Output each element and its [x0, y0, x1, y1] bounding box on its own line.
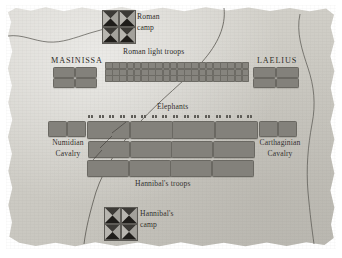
hannibal-line-block	[215, 121, 258, 139]
numidian-cavalry-block	[48, 121, 67, 137]
hannibal-line-block	[172, 121, 215, 139]
camp-tent-icon	[119, 27, 136, 44]
hannibal-line-block	[129, 160, 171, 177]
camp-tent-icon	[121, 224, 138, 241]
elephant-unit	[226, 115, 231, 118]
light-troop-unit	[191, 75, 199, 82]
laelius-cavalry-block	[276, 67, 299, 78]
elephants-formation	[87, 115, 257, 120]
light-troop-unit	[227, 75, 235, 82]
hannibal-line-block	[171, 141, 213, 158]
hannibal-line-block	[87, 160, 129, 177]
elephant-unit	[247, 115, 252, 118]
elephant-unit	[131, 115, 136, 118]
carthaginian-cavalry-label-line1: Carthaginian	[247, 139, 313, 148]
roman-camp-label-line1: Roman	[137, 13, 160, 22]
laelius-cavalry-block	[253, 78, 276, 89]
roman-camp-icon-group	[102, 10, 134, 42]
light-troop-unit	[242, 75, 250, 82]
hannibal-camp-label-line2: camp	[140, 221, 157, 230]
numidian-cavalry-block	[67, 121, 86, 137]
masinissa-cavalry-block	[53, 67, 75, 78]
elephants-label: Elephants	[157, 103, 188, 112]
elephant-unit	[216, 115, 221, 118]
camp-tent-icon	[119, 10, 136, 27]
elephant-unit	[120, 115, 125, 118]
hannibal-camp-icon-group	[104, 207, 136, 239]
roman-light-troops-label: Roman light troops	[123, 48, 184, 57]
elephant-unit	[237, 115, 242, 118]
laelius-label: LAELIUS	[257, 56, 297, 65]
elephant-unit	[88, 115, 93, 118]
elephant-unit	[194, 115, 199, 118]
elephant-unit	[184, 115, 189, 118]
camp-tent-icon	[104, 224, 121, 241]
hannibal-line-block	[212, 160, 254, 177]
battle-map: Roman camp Roman light troops MASINISSA …	[0, 0, 342, 258]
elephant-unit	[141, 115, 146, 118]
roman-camp-label-line2: camp	[137, 24, 154, 33]
light-troop-unit	[119, 75, 127, 82]
hannibal-line-block	[170, 160, 212, 177]
numidian-cavalry-label-line2: Cavalry	[37, 150, 99, 159]
camp-tent-icon	[102, 10, 119, 27]
numidian-cavalry-label-line1: Numidian	[37, 139, 99, 148]
masinissa-label: MASINISSA	[51, 56, 103, 65]
masinissa-cavalry-block	[53, 78, 75, 89]
elephant-unit	[162, 115, 167, 118]
masinissa-cavalry-block	[75, 67, 97, 78]
elephant-unit	[152, 115, 157, 118]
masinissa-cavalry-block	[75, 78, 97, 89]
hannibal-line-block	[130, 141, 172, 158]
elephant-unit	[173, 115, 178, 118]
hannibal-line-block	[130, 121, 173, 139]
light-troop-unit	[155, 75, 163, 82]
camp-tent-icon	[121, 207, 138, 224]
elephant-unit	[109, 115, 114, 118]
carthaginian-cavalry-block	[259, 121, 278, 137]
camp-tent-icon	[102, 27, 119, 44]
hannibal-line-block	[87, 121, 130, 139]
camp-tent-icon	[104, 207, 121, 224]
hannibals-troops-label: Hannibal's troops	[135, 180, 191, 189]
elephant-unit	[99, 115, 104, 118]
hannibal-camp-label-line1: Hannibal's	[140, 210, 174, 219]
carthaginian-cavalry-label-line2: Cavalry	[247, 150, 313, 159]
laelius-cavalry-block	[276, 78, 299, 89]
carthaginian-cavalry-block	[278, 121, 297, 137]
elephant-unit	[205, 115, 210, 118]
laelius-cavalry-block	[253, 67, 276, 78]
